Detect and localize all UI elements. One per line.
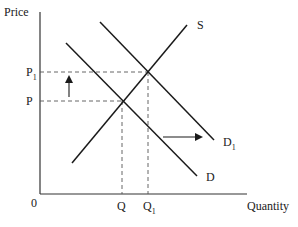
demand-label: D	[206, 170, 215, 184]
p1-label: P1	[26, 65, 37, 82]
supply-demand-diagram: Price Quantity 0 P1 P Q Q1 S D D1	[0, 0, 298, 227]
q-label: Q	[117, 199, 126, 213]
p-label: P	[26, 94, 33, 108]
origin-label: 0	[31, 196, 37, 210]
x-axis-label: Quantity	[247, 199, 289, 213]
demand-curve	[66, 43, 197, 176]
q1-label: Q1	[143, 199, 156, 216]
demand-shifted-label: D1	[223, 135, 236, 152]
y-axis-label: Price	[4, 5, 29, 19]
demand-shifted-curve	[100, 22, 214, 140]
supply-label: S	[197, 18, 204, 32]
